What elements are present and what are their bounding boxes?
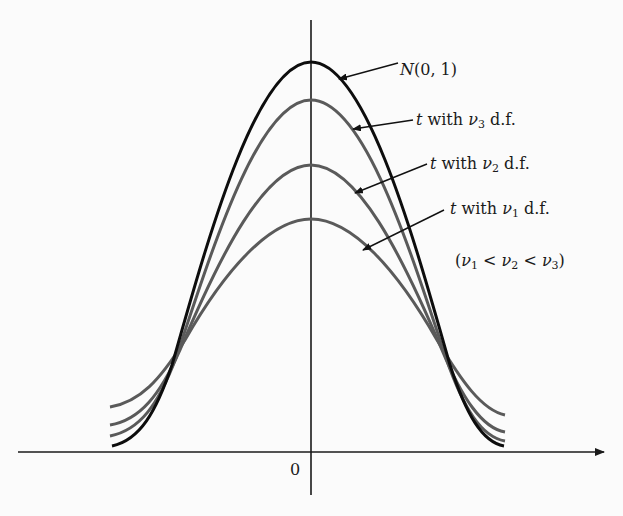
t-nu3-pointer-arrow <box>353 120 413 129</box>
origin-label: 0 <box>290 460 300 479</box>
t-nu2-curve <box>110 165 505 432</box>
normal-label: N(0, 1) <box>399 60 457 79</box>
t-nu3-label: t with ν3 d.f. <box>416 110 516 131</box>
t-nu2-pointer-arrow <box>355 164 427 193</box>
figure-canvas: N(0, 1) t with ν3 d.f. t with ν2 d.f. t … <box>0 0 623 516</box>
t-nu2-label: t with ν2 d.f. <box>430 154 530 175</box>
t-nu3-curve <box>110 100 505 441</box>
t-nu1-label: t with ν1 d.f. <box>450 199 550 220</box>
t-distribution-diagram: N(0, 1) t with ν3 d.f. t with ν2 d.f. t … <box>0 0 623 516</box>
normal-pointer-arrow <box>339 63 398 79</box>
df-ordering-condition: (ν1 < ν2 < ν3) <box>455 251 565 272</box>
t-nu1-curve <box>110 219 505 415</box>
